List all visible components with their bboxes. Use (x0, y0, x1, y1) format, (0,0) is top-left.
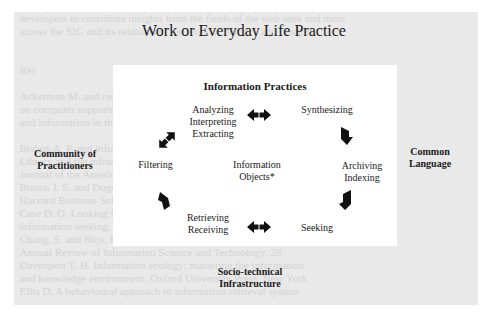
center-information-objects: Information Objects* (222, 159, 292, 183)
node-synthesizing: Synthesizing (292, 104, 362, 116)
information-practices-title: Information Practices (113, 80, 397, 92)
diagonal-bidirectional-arrow-icon (156, 129, 178, 151)
context-community-of-practitioners: Community of Practitioners (20, 148, 110, 172)
context-common-language: Common Language (400, 146, 460, 170)
node-seeking: Seeking (292, 222, 342, 234)
outer-context-title: Work or Everyday Life Practice (0, 22, 488, 40)
bidirectional-arrow-icon (247, 109, 271, 121)
context-socio-technical-infrastructure: Socio-technical Infrastructure (200, 266, 300, 290)
down-arrow-icon (339, 190, 353, 210)
node-archiving: Archiving Indexing (332, 160, 392, 184)
node-analyzing: Analyzing Interpreting Extracting (178, 104, 248, 140)
node-filtering: Filtering (128, 159, 183, 171)
information-practices-panel (113, 65, 397, 246)
node-retrieving: Retrieving Receiving (178, 212, 238, 236)
bidirectional-arrow-icon (247, 221, 271, 233)
down-arrow-icon (339, 127, 353, 145)
up-arrow-icon (158, 190, 172, 210)
